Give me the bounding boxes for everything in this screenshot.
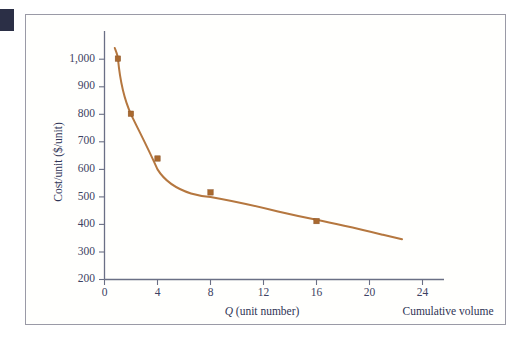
data-point-q2 — [128, 111, 133, 116]
learning-curve-chart: 200 300 400 500 600 700 800 900 1,000 0 … — [0, 0, 528, 347]
y-tick-label-700: 700 — [78, 134, 96, 146]
x-tick-label-0: 0 — [102, 286, 108, 298]
y-tick-label-600: 600 — [78, 162, 96, 174]
x-axis-title-secondary: Cumulative volume — [402, 305, 493, 317]
y-tick-label-500: 500 — [78, 190, 96, 202]
x-tick-label-12: 12 — [258, 286, 270, 298]
data-point-q8 — [208, 190, 213, 195]
y-axis-title: Cost/unit ($/unit) — [52, 122, 65, 202]
y-tick-label-200: 200 — [78, 272, 96, 284]
x-axis-ticks — [105, 280, 423, 286]
y-tick-label-800: 800 — [78, 107, 96, 119]
x-tick-label-4: 4 — [155, 286, 161, 298]
data-point-q1 — [115, 56, 120, 61]
data-point-q16 — [314, 218, 319, 223]
data-point-q4 — [155, 156, 160, 161]
y-axis-tick-labels: 200 300 400 500 600 700 800 900 1,000 — [69, 52, 95, 284]
y-tick-label-400: 400 — [78, 217, 96, 229]
y-tick-label-900: 900 — [78, 79, 96, 91]
x-axis-title: Q (unit number) — [225, 305, 300, 318]
y-tick-label-1000: 1,000 — [69, 52, 95, 65]
x-axis-tick-labels: 0 4 8 12 16 20 24 — [102, 286, 429, 298]
y-axis-ticks — [99, 59, 105, 279]
x-tick-label-20: 20 — [364, 286, 376, 298]
x-tick-label-16: 16 — [311, 286, 323, 298]
figure-page: 200 300 400 500 600 700 800 900 1,000 0 … — [0, 0, 528, 347]
x-tick-label-24: 24 — [417, 286, 429, 298]
x-axis-title-rest: (unit number) — [233, 305, 300, 318]
y-tick-label-300: 300 — [78, 245, 96, 257]
learning-curve-path — [115, 48, 402, 239]
x-tick-label-8: 8 — [208, 286, 214, 298]
